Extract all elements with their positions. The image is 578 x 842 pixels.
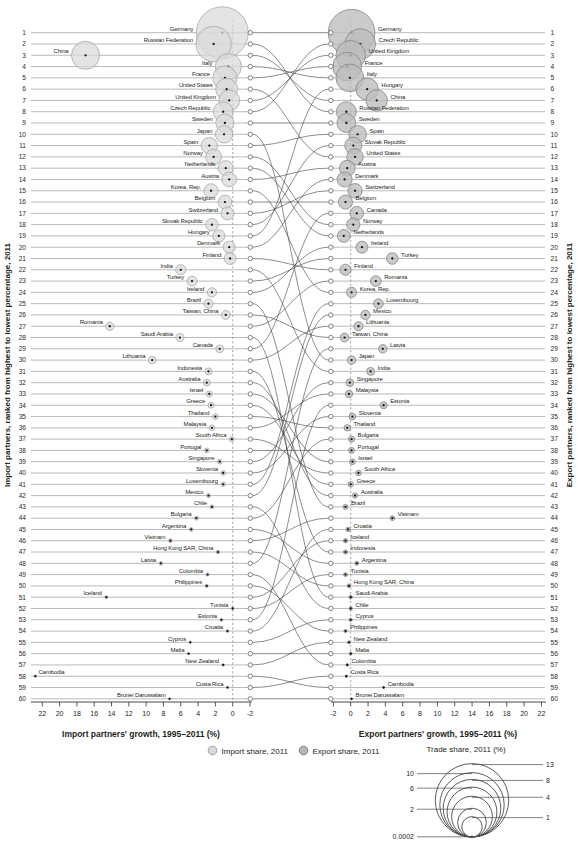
import-label-austria: Austria [201, 173, 219, 179]
export-label-taiwan-china: Taiwan, China [352, 331, 389, 337]
import-label-denmark: Denmark [197, 240, 221, 246]
import-label-cambodia: Cambodia [38, 669, 65, 675]
partner-curve-brazil [253, 304, 329, 507]
export-endpoint-dot [329, 584, 333, 588]
import-rank-number: 5 [22, 74, 26, 81]
export-axis-tick-label: 0 [349, 710, 353, 717]
export-point-tunisia [344, 573, 346, 575]
export-rank-number: 53 [551, 616, 559, 623]
export-axis-tick-label: 8 [418, 710, 422, 717]
import-axis-tick-label: 14 [108, 710, 116, 717]
export-label-netherlands: Netherlands [353, 229, 384, 235]
import-axis-tick-label: -2 [247, 710, 253, 717]
export-label-canada: Canada [367, 207, 388, 213]
export-point-chile [350, 607, 352, 609]
export-label-ireland: Ireland [371, 240, 388, 246]
export-endpoint-dot [329, 31, 333, 35]
import-endpoint-dot [248, 527, 252, 531]
export-axis-tick-label: 14 [468, 710, 476, 717]
export-rank-number: 10 [551, 131, 559, 138]
export-point-israel [351, 461, 353, 463]
partner-curve-cyprus [253, 620, 329, 643]
import-rank-number: 47 [19, 548, 27, 555]
import-label-india: India [160, 263, 173, 269]
import-point-finland [229, 257, 231, 259]
export-endpoint-dot [329, 426, 333, 430]
import-label-united-states: United States [179, 82, 213, 88]
export-rank-number: 18 [551, 221, 559, 228]
import-rank-number: 42 [19, 492, 27, 499]
import-rank-number: 44 [19, 514, 27, 521]
import-label-iceland: Iceland [83, 590, 101, 596]
export-point-luxembourg [377, 303, 379, 305]
export-endpoint-dot [329, 256, 333, 260]
export-label-turkey: Turkey [401, 252, 418, 258]
export-rank-number: 3 [551, 52, 555, 59]
export-endpoint-dot [329, 618, 333, 622]
import-point-cyprus [189, 641, 191, 643]
export-point-iceland [344, 540, 346, 542]
export-label-italy: Italy [367, 71, 377, 77]
import-rank-number: 55 [19, 639, 27, 646]
export-endpoint-dot [329, 392, 333, 396]
partner-curve-china [253, 55, 329, 100]
import-rank-number: 26 [19, 311, 27, 318]
import-point-croatia [226, 630, 228, 632]
import-rank-number: 7 [22, 97, 26, 104]
export-endpoint-dot [329, 606, 333, 610]
export-rank-number: 6 [551, 85, 555, 92]
import-rank-number: 29 [19, 345, 27, 352]
export-point-korea-rep [350, 291, 352, 293]
import-label-brazil: Brazil [187, 297, 201, 303]
export-label-united-kingdom: United Kingdom [368, 48, 409, 54]
export-endpoint-dot [329, 663, 333, 667]
import-rank-number: 48 [19, 560, 27, 567]
import-rank-number: 38 [19, 447, 27, 454]
export-rank-number: 32 [551, 379, 559, 386]
import-share-legend-icon [208, 746, 217, 755]
export-point-brazil [344, 506, 346, 508]
import-point-iceland [105, 596, 107, 598]
import-endpoint-dot [248, 143, 252, 147]
import-point-singapore [219, 461, 221, 463]
import-endpoint-dot [248, 64, 252, 68]
export-rank-number: 29 [551, 345, 559, 352]
export-point-belgium [344, 201, 346, 203]
import-label-south-africa: South Africa [196, 432, 227, 438]
import-endpoint-dot [248, 301, 252, 305]
import-axis-tick-label: 0 [231, 710, 235, 717]
size-legend-value: 2 [410, 806, 414, 813]
partner-curve-luxembourg [253, 304, 329, 485]
export-point-lithuania [357, 325, 359, 327]
import-label-bulgaria: Bulgaria [171, 511, 193, 517]
size-legend-value: 1 [546, 814, 550, 821]
import-endpoint-dot [248, 31, 252, 35]
export-endpoint-dot [329, 561, 333, 565]
export-label-malaysia: Malaysia [356, 387, 379, 393]
import-endpoint-dot [248, 437, 252, 441]
partner-curve-norway [253, 157, 329, 225]
export-axis-tick-label: 16 [486, 710, 494, 717]
export-rank-number: 56 [551, 650, 559, 657]
import-point-malaysia [211, 427, 213, 429]
import-point-argentina [190, 528, 192, 530]
import-label-turkey: Turkey [167, 274, 184, 280]
import-label-norway: Norway [183, 150, 203, 156]
export-endpoint-dot [329, 550, 333, 554]
import-endpoint-dot [248, 629, 252, 633]
export-endpoint-dot [329, 189, 333, 193]
import-label-canada: Canada [193, 342, 214, 348]
export-rank-number: 14 [551, 176, 559, 183]
import-point-slovenia [222, 472, 224, 474]
export-point-colombia [346, 664, 348, 666]
export-endpoint-dot [329, 200, 333, 204]
import-rank-number: 14 [19, 176, 27, 183]
rank-connector-curves [253, 33, 329, 699]
export-rank-number: 59 [551, 684, 559, 691]
export-endpoint-dot [329, 324, 333, 328]
export-rank-number: 54 [551, 627, 559, 634]
partner-curve-australia [253, 383, 329, 496]
size-legend-value: 4 [546, 794, 550, 801]
import-label-chile: Chile [194, 500, 208, 506]
export-endpoint-dot [329, 42, 333, 46]
